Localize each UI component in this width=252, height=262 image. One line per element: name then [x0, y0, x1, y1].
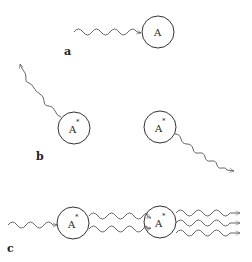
- excited-star: *: [76, 118, 80, 126]
- panel-a: A a: [64, 16, 174, 58]
- incoming-photon-wave: [8, 222, 57, 228]
- excited-star: *: [162, 212, 166, 220]
- incoming-photon-wave: [74, 29, 141, 35]
- panel-b-right: A *: [144, 111, 234, 171]
- output-photon-wave-1: [176, 210, 240, 216]
- excited-star: *: [162, 117, 166, 125]
- atom-label: A: [153, 27, 162, 38]
- panel-c: A * A * c: [7, 206, 240, 255]
- panel-label-b: b: [36, 150, 44, 163]
- panel-label-a: a: [64, 45, 71, 58]
- emitted-photon-wave: [20, 64, 61, 117]
- photon-atom-diagram: A a A * A * b A * A * c: [0, 0, 252, 262]
- panel-label-c: c: [7, 242, 14, 255]
- panel-b-left: A *: [20, 64, 90, 144]
- excited-star: *: [75, 213, 79, 221]
- output-photon-wave-2: [176, 220, 240, 226]
- output-photon-wave-3: [176, 230, 240, 236]
- stimulated-photon-wave-1: [89, 213, 151, 219]
- emitted-photon-wave: [175, 134, 234, 171]
- stimulated-photon-wave-2: [89, 226, 151, 232]
